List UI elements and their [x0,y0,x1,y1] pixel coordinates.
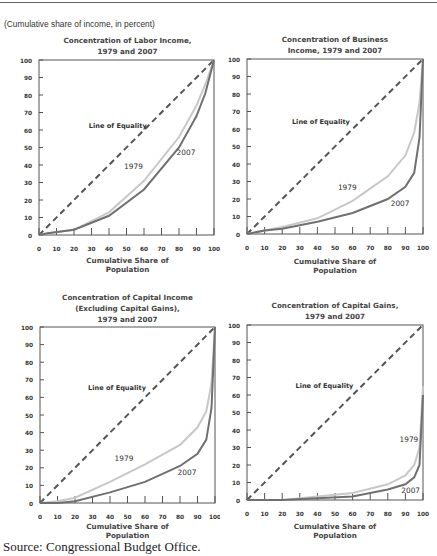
y-tick-label: 20 [232,197,240,203]
y-tick-label: 40 [232,428,240,434]
x-tick-label: 50 [331,245,339,251]
x-tick-label: 20 [71,514,79,520]
x-tick-label: 30 [88,514,96,520]
x-tick-label: 100 [208,246,220,252]
x-tick-label: 100 [417,511,429,517]
y-tick-label: 90 [24,75,32,81]
y-tick-label: 90 [25,342,33,348]
chart-business-income: 0102030405060708090100010203040506070809… [220,49,437,254]
x-tick-label: 60 [141,514,149,520]
series-label-1979: 1979 [400,435,419,444]
x-tick-label: 30 [296,511,304,517]
series-label-1979: 1979 [338,183,357,192]
y-tick-label: 50 [232,144,240,150]
x-tick-label: 90 [193,514,201,520]
series-label-1979: 1979 [115,454,134,463]
x-tick-label: 70 [157,246,165,252]
x-tick-label: 80 [384,511,392,517]
x-tick-label: 40 [105,246,113,252]
series-label-2007: 2007 [391,199,410,208]
y-tick-label: 70 [232,375,240,381]
y-tick-label: 0 [29,501,33,507]
series-label-2007: 2007 [177,148,196,157]
chart-labor-income: 0102030405060708090100010203040506070809… [0,50,220,255]
y-tick-label: 50 [24,145,32,151]
x-tick-label: 40 [106,514,114,520]
equality-line [247,325,423,500]
x-tick-label: 60 [349,245,357,251]
y-tick-label: 100 [21,325,33,331]
x-tick-label: 80 [176,514,184,520]
y-tick-label: 80 [232,92,240,98]
x-tick-label: 0 [245,511,249,517]
equality-label: Line of Equality [88,384,147,392]
x-tick-label: 10 [53,514,61,520]
y-tick-label: 100 [228,57,240,63]
y-tick-label: 70 [24,110,32,116]
x-tick-label: 70 [366,245,374,251]
series-label-2007: 2007 [401,486,420,495]
y-tick-label: 0 [236,232,240,238]
y-tick-label: 80 [25,360,33,366]
x-tick-label: 90 [192,246,200,252]
y-tick-label: 70 [232,109,240,115]
x-tick-label: 40 [313,511,321,517]
y-tick-label: 60 [232,127,240,133]
x-tick-label: 70 [366,511,374,517]
y-tick-label: 0 [236,498,240,504]
y-tick-label: 0 [28,233,32,239]
y-tick-label: 20 [25,465,33,471]
x-tick-label: 30 [87,246,95,252]
source-note: Source: Congressional Budget Office. [3,539,201,555]
x-tick-label: 50 [123,514,131,520]
equality-label: Line of Equality [292,118,351,126]
x-tick-label: 40 [313,245,321,251]
y-tick-label: 40 [232,162,240,168]
x-tick-label: 10 [52,246,60,252]
y-tick-label: 100 [228,323,240,329]
y-tick-label: 70 [25,377,33,383]
x-tick-label: 20 [278,245,286,251]
unit-note: (Cumulative share of income, in percent) [4,19,155,29]
y-tick-label: 10 [232,214,240,220]
x-tick-label: 90 [401,245,409,251]
y-tick-label: 40 [24,163,32,169]
x-axis-label-business: Cumulative Share of Population [247,257,423,275]
y-tick-label: 50 [25,413,33,419]
chart-capital-gains: 0102030405060708090100010203040506070809… [220,315,437,520]
y-tick-label: 90 [232,340,240,346]
y-tick-label: 30 [24,180,32,186]
x-tick-label: 20 [70,246,78,252]
y-tick-label: 60 [232,393,240,399]
x-tick-label: 80 [175,246,183,252]
x-tick-label: 30 [296,245,304,251]
y-tick-label: 90 [232,74,240,80]
x-tick-label: 100 [209,514,220,520]
x-axis-label-capital-income: Cumulative Share of Population [40,522,215,540]
y-tick-label: 30 [232,179,240,185]
series-2007-line [247,395,423,500]
y-tick-label: 50 [232,410,240,416]
y-tick-label: 20 [232,463,240,469]
y-tick-label: 20 [24,198,32,204]
y-tick-label: 10 [24,215,32,221]
x-tick-label: 0 [245,245,249,251]
x-axis-label-labor: Cumulative Share of Population [40,256,215,274]
x-tick-label: 80 [384,245,392,251]
x-tick-label: 0 [38,514,42,520]
x-tick-label: 10 [261,245,269,251]
series-label-2007: 2007 [178,468,197,477]
y-tick-label: 10 [25,483,33,489]
series-1979-line [247,386,423,500]
x-tick-label: 60 [349,511,357,517]
equality-label: Line of Equality [89,122,148,130]
y-tick-label: 60 [25,395,33,401]
equality-label: Line of Equality [295,382,354,390]
x-tick-label: 10 [261,511,269,517]
series-label-1979: 1979 [124,162,143,171]
y-tick-label: 100 [20,58,32,64]
x-tick-label: 70 [158,514,166,520]
y-tick-label: 10 [232,480,240,486]
y-tick-label: 30 [232,445,240,451]
y-tick-label: 80 [232,358,240,364]
